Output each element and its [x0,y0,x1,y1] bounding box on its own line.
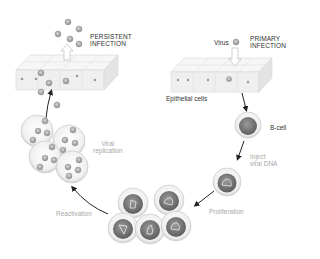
infected-b-cell [213,168,241,196]
label-inject-viral-dna: Inject viral DNA [250,153,277,167]
label-proliferation: Proliferation [209,208,244,215]
epithelium-right [171,58,272,92]
label-virus: Virus [214,39,229,46]
label-reactivation: Reactivation [56,210,92,217]
b-cell [235,112,261,138]
label-epithelial-cells: Epithelial cells [166,95,207,102]
virus-particle-incoming [233,39,239,45]
label-primary-infection: PRIMARY INFECTION [250,35,286,49]
arrow-inject [238,141,244,158]
label-b-cell: B-cell [270,124,286,131]
arrow-to-bcell [242,93,246,109]
proliferated-cells [108,185,191,244]
label-viral-replication: Viral replication [93,140,123,154]
arrow-to-persistent [46,92,51,118]
replicating-cells [21,115,88,183]
label-persistent-infection: PERSISTENT INFECTION [90,33,132,47]
arrow-proliferation [196,191,214,205]
